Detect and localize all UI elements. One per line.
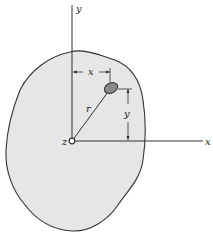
y-dimension-label: y <box>123 108 130 119</box>
diagram-figure: y x z r x y <box>0 0 213 239</box>
origin-z-marker <box>69 138 75 144</box>
x-axis-label: x <box>205 136 211 147</box>
diagram-canvas: y x z r x y <box>0 0 213 239</box>
y-axis-label: y <box>75 3 82 14</box>
z-axis-label: z <box>61 136 68 147</box>
x-dimension-label: x <box>88 66 94 77</box>
